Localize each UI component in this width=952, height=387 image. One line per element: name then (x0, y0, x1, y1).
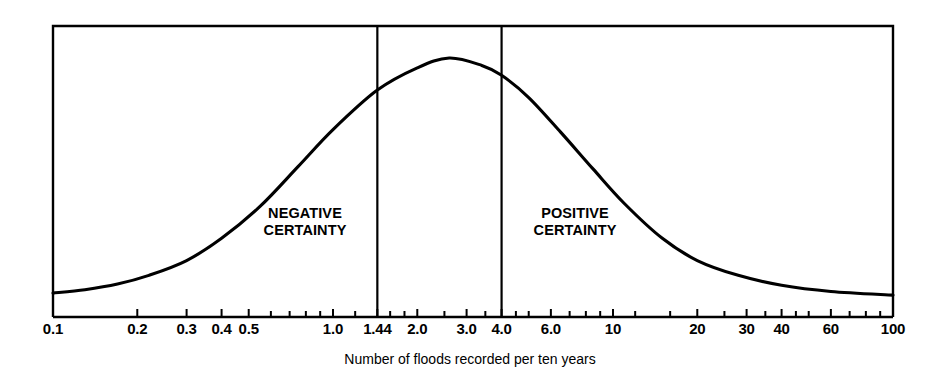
x-axis-title: Number of floods recorded per ten years (344, 351, 595, 367)
plot-frame (53, 26, 893, 317)
x-tick-label: 0.4 (211, 320, 231, 337)
negative-certainty-line1: NEGATIVE (264, 205, 347, 222)
positive-certainty-label: POSITIVE CERTAINTY (534, 205, 617, 239)
x-tick-label: 40 (773, 320, 789, 337)
x-tick-label: 1.0 (323, 320, 343, 337)
x-tick-label: 2.0 (407, 320, 427, 337)
x-tick-label: 0.3 (176, 320, 196, 337)
x-tick-label: 0.1 (43, 320, 63, 337)
x-tick-label: 3.0 (456, 320, 476, 337)
x-tick-label: 1.44 (363, 320, 391, 337)
x-tick-label: 0.2 (127, 320, 147, 337)
x-tick-label: 20 (689, 320, 705, 337)
negative-certainty-label: NEGATIVE CERTAINTY (264, 205, 347, 239)
x-tick-label: 10 (605, 320, 621, 337)
x-tick-label: 4.0 (491, 320, 511, 337)
flood-frequency-chart: 0.10.20.30.40.51.01.442.03.04.06.0102030… (0, 0, 952, 387)
x-tick-label: 30 (738, 320, 754, 337)
x-tick-label: 60 (823, 320, 839, 337)
x-tick-label: 100 (881, 320, 905, 337)
threshold-dividers (377, 26, 501, 317)
negative-certainty-line2: CERTAINTY (264, 222, 347, 239)
x-tick-label: 6.0 (541, 320, 561, 337)
positive-certainty-line2: CERTAINTY (534, 222, 617, 239)
x-tick-label: 0.5 (239, 320, 259, 337)
positive-certainty-line1: POSITIVE (534, 205, 617, 222)
certainty-curve (53, 58, 893, 295)
